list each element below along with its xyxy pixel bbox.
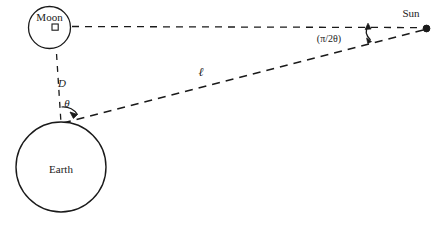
sun-angle-arrowhead-top xyxy=(365,23,371,29)
moon-sun-earth-diagram: Moon Earth Sun D ℓ θ (π/2θ) xyxy=(0,0,437,225)
moon-label: Moon xyxy=(36,11,63,23)
theta-label: θ xyxy=(64,97,70,109)
diagram-canvas: Moon Earth Sun D ℓ θ (π/2θ) xyxy=(0,0,437,225)
length-l-label: ℓ xyxy=(199,65,204,79)
earth-label: Earth xyxy=(49,163,73,175)
sun-dot xyxy=(423,25,430,32)
sun-label: Sun xyxy=(402,7,420,19)
earth-sun-line xyxy=(63,30,426,124)
distance-d-label: D xyxy=(57,77,66,89)
sun-angle-label: (π/2θ) xyxy=(317,33,341,45)
moon-sun-line xyxy=(72,27,424,28)
